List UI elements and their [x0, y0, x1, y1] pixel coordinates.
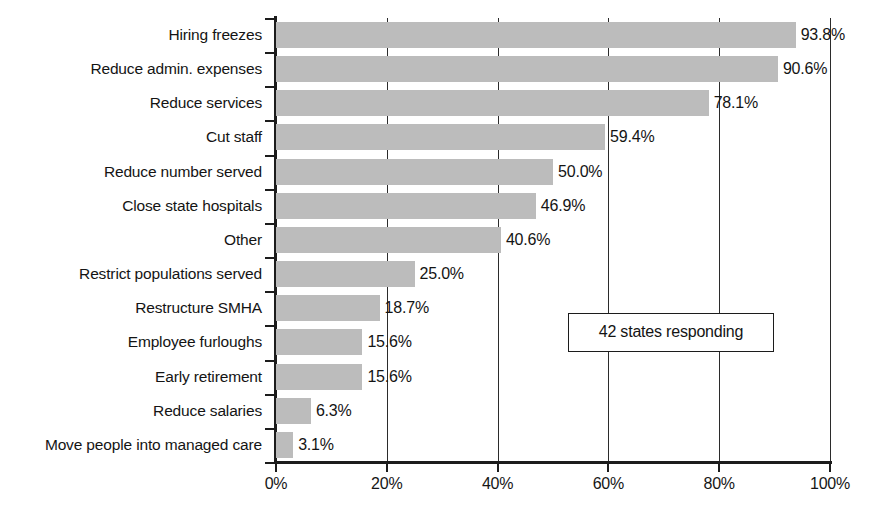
bar — [276, 364, 362, 390]
category-label: Employee furloughs — [0, 325, 262, 359]
x-tick-label: 20% — [347, 474, 427, 493]
bar — [276, 56, 778, 82]
category-label: Reduce salaries — [0, 394, 262, 428]
chart-row: Move people into managed care3.1% — [0, 428, 869, 462]
annotation-label: 42 states responding — [569, 314, 773, 350]
category-label: Early retirement — [0, 360, 262, 394]
bar-value-label: 15.6% — [367, 329, 411, 355]
chart-row: Restrict populations served25.0% — [0, 257, 869, 291]
bar-value-label: 40.6% — [506, 227, 550, 253]
category-label: Other — [0, 223, 262, 257]
category-label: Reduce services — [0, 86, 262, 120]
bar — [276, 159, 553, 185]
category-label: Move people into managed care — [0, 428, 262, 462]
category-label: Reduce number served — [0, 155, 262, 189]
x-tick-label: 40% — [458, 474, 538, 493]
bar-chart: 0%20%40%60%80%100%Hiring freezes93.8%Red… — [0, 0, 869, 516]
bar — [276, 124, 605, 150]
bar-value-label: 15.6% — [367, 364, 411, 390]
chart-row: Reduce services78.1% — [0, 86, 869, 120]
bar — [276, 227, 501, 253]
category-tick — [265, 462, 276, 464]
category-label: Restrict populations served — [0, 257, 262, 291]
bar-value-label: 46.9% — [541, 193, 585, 219]
chart-row: Reduce number served50.0% — [0, 155, 869, 189]
category-label: Restructure SMHA — [0, 291, 262, 325]
chart-row: Other40.6% — [0, 223, 869, 257]
category-label: Cut staff — [0, 120, 262, 154]
bar — [276, 329, 362, 355]
x-tick-20 — [386, 462, 388, 472]
chart-row: Close state hospitals46.9% — [0, 189, 869, 223]
bar-value-label: 6.3% — [316, 398, 352, 424]
x-tick-label: 60% — [568, 474, 648, 493]
bar-value-label: 90.6% — [783, 56, 827, 82]
chart-row: Hiring freezes93.8% — [0, 18, 869, 52]
bar-value-label: 18.7% — [385, 295, 429, 321]
bar — [276, 398, 311, 424]
category-label: Hiring freezes — [0, 18, 262, 52]
x-tick-label: 0% — [236, 474, 316, 493]
chart-row: Reduce salaries6.3% — [0, 394, 869, 428]
bar — [276, 432, 293, 458]
bar — [276, 22, 796, 48]
bar — [276, 261, 415, 287]
category-label: Close state hospitals — [0, 189, 262, 223]
x-tick-label: 80% — [679, 474, 759, 493]
bar-value-label: 3.1% — [298, 432, 334, 458]
x-tick-label: 100% — [790, 474, 869, 493]
chart-row: Reduce admin. expenses90.6% — [0, 52, 869, 86]
x-tick-80 — [718, 462, 720, 472]
chart-row: Early retirement15.6% — [0, 360, 869, 394]
bar — [276, 295, 380, 321]
x-tick-60 — [607, 462, 609, 472]
x-tick-100 — [829, 462, 831, 472]
x-tick-40 — [497, 462, 499, 472]
bar-value-label: 59.4% — [610, 124, 654, 150]
bar-value-label: 50.0% — [558, 159, 602, 185]
annotation-box: 42 states responding — [568, 313, 774, 352]
bar-value-label: 93.8% — [801, 22, 845, 48]
bar — [276, 193, 536, 219]
chart-row: Cut staff59.4% — [0, 120, 869, 154]
bar-value-label: 78.1% — [714, 90, 758, 116]
bar-value-label: 25.0% — [420, 261, 464, 287]
bar — [276, 90, 709, 116]
category-label: Reduce admin. expenses — [0, 52, 262, 86]
